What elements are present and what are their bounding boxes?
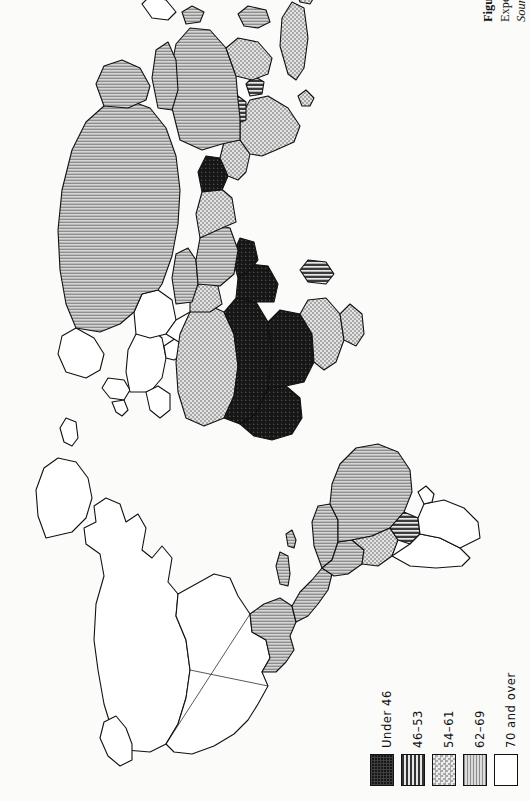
legend-item-54-61[interactable]: 54–61 (432, 614, 458, 786)
region-japan (142, 0, 176, 20)
region-south-africa (340, 304, 364, 346)
region-canada (84, 498, 190, 752)
region-iberia (146, 386, 170, 418)
legend-swatch-62-69 (463, 754, 487, 786)
figure-number: Figure 3.2 (480, 0, 497, 22)
legend-item-46-53[interactable]: 46–53 (401, 614, 427, 786)
figure-caption: Figure 3.2 Expectation of life at birth … (480, 0, 530, 22)
legend-swatch-54-61 (432, 754, 456, 786)
legend-label-70-and-over: 70 and over (504, 724, 518, 748)
legend-swatch-under-46 (370, 754, 394, 786)
region-british-isles (102, 378, 130, 400)
region-central-america (292, 568, 332, 622)
legend-item-70-and-over[interactable]: 70 and over (494, 614, 520, 786)
map-legend: Under 46 46–53 54–61 62–69 70 and over (362, 614, 514, 786)
region-papua-new-guinea (296, 0, 316, 4)
region-western-europe (126, 328, 166, 392)
legend-swatch-46-53 (401, 754, 425, 786)
region-indonesia (280, 2, 308, 80)
region-sri-lanka (298, 90, 314, 106)
legend-label-under-46: Under 46 (380, 724, 394, 748)
region-philippines (238, 6, 270, 28)
figure-page: Under 46 46–53 54–61 62–69 70 and over F… (0, 0, 530, 801)
region-uruguay (418, 486, 434, 504)
legend-item-under-46[interactable]: Under 46 (370, 614, 396, 786)
legend-item-62-69[interactable]: 62–69 (463, 614, 489, 786)
region-cuba (276, 552, 290, 586)
region-ussr-east (96, 60, 150, 108)
legend-label-62-69: 62–69 (473, 724, 487, 748)
region-ireland (112, 400, 128, 416)
region-madagascar (300, 260, 334, 284)
region-scandinavia (58, 328, 104, 378)
region-hispaniola (286, 530, 296, 548)
region-greenland (36, 458, 92, 538)
region-korea (182, 6, 204, 24)
legend-swatch-70-and-over (494, 754, 518, 786)
region-india (240, 96, 300, 156)
figure-title: Expectation of life at birth c. 1985 (497, 0, 514, 22)
figure-source: Source: Data from Population Reference B… (513, 0, 530, 22)
source-lead: Source: (514, 0, 528, 22)
region-turkey (172, 248, 198, 304)
legend-label-46-53: 46–53 (411, 724, 425, 748)
region-iceland (60, 418, 78, 446)
legend-label-54-61: 54–61 (442, 724, 456, 748)
